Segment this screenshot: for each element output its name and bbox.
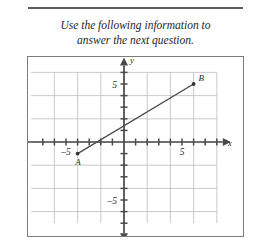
y-tick-label: 5 (112, 80, 117, 90)
axes (28, 57, 231, 236)
top-divider (28, 7, 243, 9)
y-tick-label: –5 (107, 196, 118, 206)
prompt-line-1: Use the following information to (18, 18, 253, 33)
plotted-data: AB (74, 73, 204, 167)
data-point-b (192, 82, 196, 86)
point-label-a: A (74, 157, 81, 167)
axis-labels: –555–5xy (60, 57, 232, 206)
point-label-b: B (199, 73, 205, 83)
coordinate-graph: –555–5xy AB (28, 57, 243, 236)
graph-container: –555–5xy AB (27, 56, 244, 237)
y-axis-arrow-up (120, 57, 128, 65)
x-tick-label: 5 (180, 147, 185, 157)
x-axis-label: x (227, 138, 232, 148)
y-axis-label: y (129, 57, 134, 65)
x-tick-label: –5 (60, 147, 71, 157)
data-point-a (76, 152, 80, 156)
prompt-line-2: answer the next question. (18, 33, 253, 48)
question-prompt: Use the following information to answer … (18, 18, 253, 48)
y-axis-arrow-down (120, 233, 128, 236)
